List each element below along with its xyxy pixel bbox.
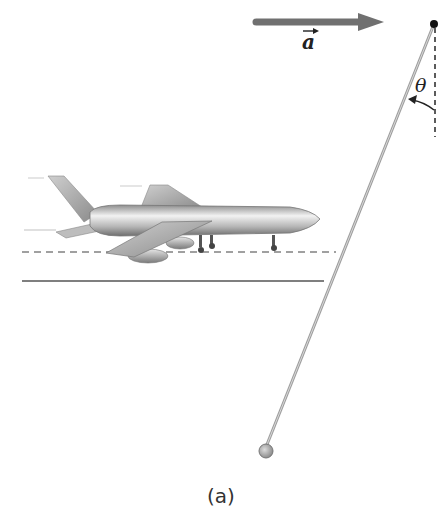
figure-caption: (a): [207, 484, 235, 508]
vector-arrow-icon: [303, 27, 319, 35]
pendulum-in-aircraft-diagram: a θ (a): [0, 0, 446, 528]
jet-airplane-icon: [24, 176, 320, 263]
acceleration-vector-label: a: [302, 30, 315, 54]
pendulum-bob-icon: [259, 444, 273, 458]
angle-label: θ: [415, 74, 426, 96]
acceleration-arrow-icon: [256, 13, 384, 31]
angle-arc-icon: [408, 95, 434, 110]
pivot-point-icon: [430, 20, 438, 28]
